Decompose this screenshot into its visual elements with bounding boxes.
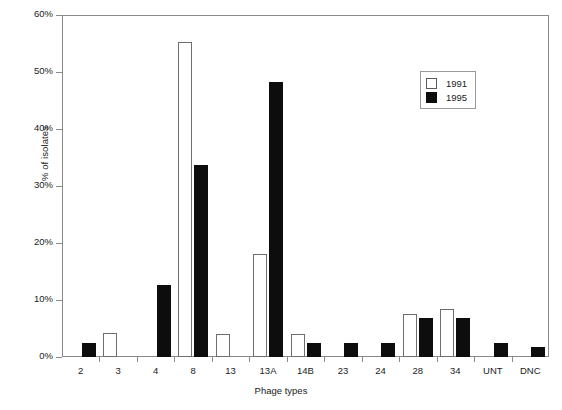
- y-tick-label: 0%: [39, 350, 53, 361]
- bar-34-1991: [440, 309, 454, 357]
- bar-4-1995: [157, 285, 171, 357]
- x-axis-label: Phage types: [0, 385, 562, 396]
- y-tick-label: 60%: [34, 8, 53, 19]
- x-tick-mark: [324, 357, 325, 362]
- y-tick-label: 40%: [34, 122, 53, 133]
- x-tick-mark: [249, 357, 250, 362]
- bar-14b-1991: [291, 334, 305, 357]
- bar-14b-1995: [307, 343, 321, 357]
- x-tick-label-13: 13: [212, 365, 249, 376]
- x-tick-mark: [212, 357, 213, 362]
- bar-8-1995: [194, 165, 208, 357]
- x-tick-label-23: 23: [324, 365, 361, 376]
- legend-swatch-1991: [426, 78, 437, 89]
- y-tick-mark: [56, 243, 62, 244]
- y-tick-mark: [56, 129, 62, 130]
- x-tick-label-2: 2: [62, 365, 99, 376]
- bar-2-1995: [82, 343, 96, 357]
- bar-unt-1995: [494, 343, 508, 357]
- y-tick-mark: [56, 300, 62, 301]
- x-tick-label-13a: 13A: [249, 365, 286, 376]
- bar-13a-1991: [253, 254, 267, 357]
- x-tick-label-24: 24: [362, 365, 399, 376]
- x-tick-mark: [362, 357, 363, 362]
- bar-8-1991: [178, 42, 192, 357]
- bar-34-1995: [456, 318, 470, 357]
- x-tick-mark: [174, 357, 175, 362]
- bar-28-1991: [403, 314, 417, 357]
- legend-label-1991: 1991: [446, 78, 467, 89]
- y-tick-label: 10%: [34, 293, 53, 304]
- x-tick-mark: [474, 357, 475, 362]
- plot-area: [62, 15, 549, 357]
- x-tick-label-28: 28: [399, 365, 436, 376]
- bar-23-1995: [344, 343, 358, 357]
- y-tick-mark: [56, 15, 62, 16]
- x-tick-label-34: 34: [437, 365, 474, 376]
- x-tick-mark: [287, 357, 288, 362]
- x-tick-mark: [137, 357, 138, 362]
- bar-13a-1995: [269, 82, 283, 357]
- x-tick-mark: [512, 357, 513, 362]
- y-tick-mark: [56, 72, 62, 73]
- legend-item-1991: 1991: [426, 76, 467, 90]
- legend-label-1995: 1995: [446, 92, 467, 103]
- x-tick-label-3: 3: [99, 365, 136, 376]
- x-tick-mark: [437, 357, 438, 362]
- chart-legend: 1991 1995: [420, 71, 476, 109]
- legend-swatch-1995: [426, 92, 437, 103]
- bar-24-1995: [381, 343, 395, 357]
- bar-28-1995: [419, 318, 433, 357]
- x-tick-label-dnc: DNC: [512, 365, 549, 376]
- y-axis-label: % of isolates: [39, 74, 50, 234]
- bar-13-1991: [216, 334, 230, 357]
- bar-dnc-1995: [531, 347, 545, 357]
- x-tick-label-4: 4: [137, 365, 174, 376]
- bar-chart: % of isolates 0%10%20%30%40%50%60% 23481…: [0, 0, 562, 410]
- legend-item-1995: 1995: [426, 90, 467, 104]
- y-tick-mark: [56, 357, 62, 358]
- x-tick-label-unt: UNT: [474, 365, 511, 376]
- y-tick-label: 20%: [34, 236, 53, 247]
- x-tick-mark: [399, 357, 400, 362]
- x-tick-label-8: 8: [174, 365, 211, 376]
- x-tick-label-14b: 14B: [287, 365, 324, 376]
- x-tick-mark: [99, 357, 100, 362]
- y-tick-mark: [56, 186, 62, 187]
- y-tick-label: 50%: [34, 65, 53, 76]
- y-tick-label: 30%: [34, 179, 53, 190]
- bar-3-1991: [103, 333, 117, 357]
